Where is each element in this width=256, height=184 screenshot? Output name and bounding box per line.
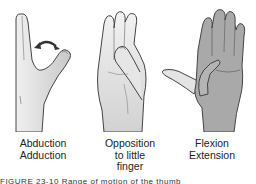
label-line: Opposition [82,138,178,150]
label-line: Adduction [0,150,86,162]
label-line: Abduction [0,138,86,150]
label-abduction-adduction: Abduction Adduction [0,138,86,161]
label-line: Extension [168,150,256,162]
figure-caption: FIGURE 23-10 Range of motion of the thum… [0,178,256,184]
label-line: Flexion [168,138,256,150]
label-flexion-extension: Flexion Extension [168,138,256,161]
flexion-extension-illustration [160,0,256,132]
abduction-adduction-illustration [0,0,90,132]
label-opposition: Opposition to little finger [82,138,178,173]
label-line: finger [82,161,178,173]
curved-double-arrow-icon [34,42,60,50]
